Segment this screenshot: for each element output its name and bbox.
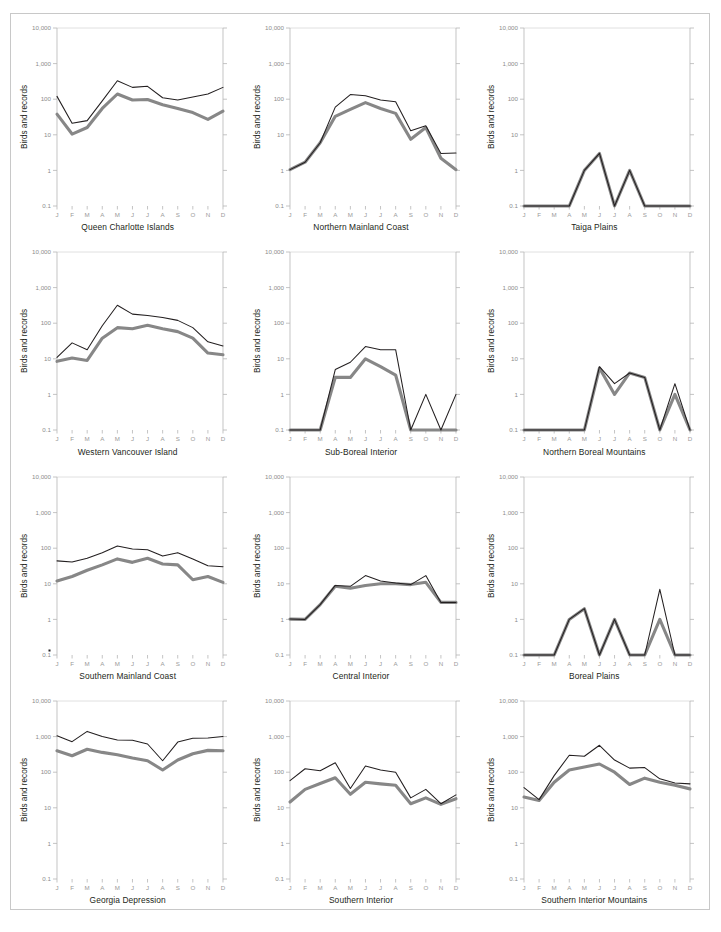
y-tick-label: 10,000: [265, 473, 284, 480]
y-tick-label: 10: [277, 804, 284, 811]
x-tick-label: A: [627, 435, 632, 442]
x-tick-label: J: [364, 211, 367, 218]
y-tick-label: 1,000: [502, 284, 518, 291]
x-tick-label: A: [567, 884, 572, 891]
y-tick-label: 1,000: [36, 60, 52, 67]
x-tick-label: F: [304, 884, 308, 891]
series-line-records: [57, 546, 223, 567]
x-tick-label: D: [221, 435, 226, 442]
x-tick-label: N: [206, 660, 210, 667]
x-tick-label: D: [454, 435, 459, 442]
x-tick-label: M: [581, 660, 586, 667]
x-tick-label: J: [55, 884, 58, 891]
x-tick-label: N: [439, 211, 443, 218]
stray-ink-mark: [48, 649, 50, 651]
y-axis-label: Birds and records: [487, 85, 496, 149]
chart-panel: 10,0001,0001001010.1JFMAMJJASONDBirds an…: [244, 238, 477, 462]
y-tick-label: 0.1: [276, 202, 285, 209]
x-tick-label: F: [537, 211, 541, 218]
series-line-records: [524, 153, 690, 206]
chart-panel: 10,0001,0001001010.1JFMAMJJASONDBirds an…: [244, 14, 477, 238]
x-tick-label: J: [613, 660, 616, 667]
chart-panel: 10,0001,0001001010.1JFMAMJJASONDBirds an…: [11, 463, 244, 687]
x-tick-label: S: [642, 660, 646, 667]
x-tick-label: A: [334, 660, 339, 667]
x-tick-label: M: [348, 435, 353, 442]
panel-title: Southern Mainland Coast: [11, 671, 244, 681]
x-tick-label: J: [379, 435, 382, 442]
x-tick-label: M: [115, 211, 120, 218]
series-line-birds: [57, 558, 223, 582]
y-axis-label: Birds and records: [253, 309, 262, 373]
y-tick-label: 1: [48, 839, 52, 846]
x-tick-label: M: [85, 435, 90, 442]
x-tick-label: F: [304, 211, 308, 218]
series-line-records: [57, 731, 223, 760]
x-tick-label: N: [439, 435, 443, 442]
y-axis-label: Birds and records: [487, 309, 496, 373]
x-tick-label: M: [318, 660, 323, 667]
y-tick-label: 1,000: [269, 733, 285, 740]
y-tick-label: 100: [274, 95, 285, 102]
x-tick-label: N: [672, 211, 676, 218]
y-tick-label: 10: [511, 804, 518, 811]
series-line-birds: [524, 608, 690, 654]
y-tick-label: 1,000: [269, 60, 285, 67]
x-tick-label: O: [424, 660, 429, 667]
chart-panel: 10,0001,0001001010.1JFMAMJJASONDBirds an…: [478, 238, 711, 462]
y-tick-label: 10,000: [265, 248, 284, 255]
x-tick-label: A: [161, 660, 166, 667]
y-tick-label: 10,000: [499, 24, 518, 31]
y-tick-label: 10,000: [32, 24, 51, 31]
x-tick-label: A: [100, 435, 105, 442]
x-tick-label: A: [334, 435, 339, 442]
plot-area: 10,0001,0001001010.1JFMAMJJASONDBirds an…: [244, 463, 477, 687]
x-tick-label: J: [613, 435, 616, 442]
y-tick-label: 10: [44, 804, 51, 811]
x-tick-label: J: [379, 884, 382, 891]
panel-title: Northern Boreal Mountains: [478, 447, 711, 457]
x-tick-label: S: [409, 435, 413, 442]
x-tick-label: N: [206, 884, 210, 891]
x-tick-label: M: [85, 884, 90, 891]
x-tick-label: J: [613, 211, 616, 218]
y-tick-label: 10,000: [265, 24, 284, 31]
y-tick-label: 0.1: [42, 875, 51, 882]
x-tick-label: D: [221, 211, 226, 218]
plot-area: 10,0001,0001001010.1JFMAMJJASONDBirds an…: [478, 687, 711, 911]
y-tick-label: 0.1: [276, 651, 285, 658]
y-tick-label: 0.1: [42, 202, 51, 209]
series-line-birds: [290, 777, 456, 804]
x-tick-label: M: [551, 660, 556, 667]
y-tick-label: 1: [281, 615, 285, 622]
y-tick-label: 0.1: [42, 651, 51, 658]
x-tick-label: D: [221, 660, 226, 667]
y-tick-label: 1: [281, 391, 285, 398]
series-line-records: [57, 81, 223, 124]
y-tick-label: 10: [511, 355, 518, 362]
y-tick-label: 100: [41, 768, 52, 775]
x-tick-label: N: [672, 660, 676, 667]
x-tick-label: J: [131, 660, 134, 667]
x-tick-label: S: [642, 435, 646, 442]
y-tick-label: 100: [507, 768, 518, 775]
x-tick-label: O: [657, 211, 662, 218]
x-tick-label: O: [424, 884, 429, 891]
x-tick-label: N: [672, 884, 676, 891]
plot-area: 10,0001,0001001010.1JFMAMJJASONDBirds an…: [244, 14, 477, 238]
x-tick-label: A: [627, 211, 632, 218]
x-tick-label: O: [190, 884, 195, 891]
x-tick-label: N: [439, 884, 443, 891]
x-tick-label: J: [146, 660, 149, 667]
y-tick-label: 1: [281, 167, 285, 174]
y-tick-label: 1: [514, 615, 518, 622]
x-tick-label: J: [522, 211, 525, 218]
y-tick-label: 1,000: [36, 733, 52, 740]
y-tick-label: 100: [274, 544, 285, 551]
y-axis-label: Birds and records: [253, 85, 262, 149]
x-tick-label: S: [409, 211, 413, 218]
x-tick-label: A: [567, 660, 572, 667]
y-tick-label: 1: [514, 839, 518, 846]
series-line-records: [290, 575, 456, 619]
plot-area: 10,0001,0001001010.1JFMAMJJASONDBirds an…: [244, 687, 477, 911]
